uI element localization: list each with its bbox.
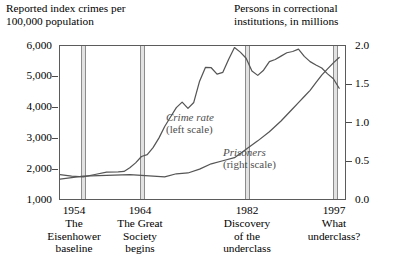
marker-caption-1964: The Great Society begins xyxy=(104,217,176,254)
prisoners-series-label: Prisoners (right scale) xyxy=(223,146,276,170)
marker-year-1997: 1997 xyxy=(296,204,372,216)
marker-caption-1954: The Eisenhower baseline xyxy=(39,217,109,254)
left-tickmark-3000 xyxy=(52,138,58,139)
right-axis-title: Persons in correctional institutions, in… xyxy=(234,2,339,27)
right-tick-2-0: 2.0 xyxy=(355,40,394,51)
marker-annotation-1954: 1954 The Eisenhower baseline xyxy=(39,204,109,255)
right-tick-1-5: 1.5 xyxy=(355,78,394,89)
marker-year-1982: 1982 xyxy=(210,204,284,216)
crime-rate-scale-text: (left scale) xyxy=(166,123,213,135)
prisoners-label-text: Prisoners xyxy=(223,146,266,158)
left-tickmark-4000 xyxy=(52,107,58,108)
right-tickmark-1-5 xyxy=(346,84,352,85)
marker-annotation-1964: 1964 The Great Society begins xyxy=(104,204,176,255)
left-tick-2000: 2,000 xyxy=(0,163,52,174)
crime-rate-series-label: Crime rate (left scale) xyxy=(166,111,214,135)
left-tick-5000: 5,000 xyxy=(0,70,52,81)
left-tick-3000: 3,000 xyxy=(0,132,52,143)
left-tickmark-2000 xyxy=(52,169,58,170)
right-tickmark-1-0 xyxy=(346,122,352,123)
marker-year-1954: 1954 xyxy=(39,204,109,216)
plot-area: Crime rate (left scale) Prisoners (right… xyxy=(59,45,346,200)
left-axis-title: Reported index crimes per 100,000 popula… xyxy=(6,2,126,27)
prisoners-scale-text: (right scale) xyxy=(223,158,276,170)
marker-caption-1997: What underclass? xyxy=(296,217,372,242)
right-tick-1-0: 1.0 xyxy=(355,117,394,128)
chart-figure: Reported index crimes per 100,000 popula… xyxy=(0,0,394,279)
left-tick-6000: 6,000 xyxy=(0,40,52,51)
left-tick-4000: 4,000 xyxy=(0,101,52,112)
marker-year-1964: 1964 xyxy=(104,204,176,216)
marker-annotation-1982: 1982 Discovery of the underclass xyxy=(210,204,284,255)
marker-caption-1982: Discovery of the underclass xyxy=(210,217,284,254)
left-tickmark-5000 xyxy=(52,76,58,77)
right-tickmark-0-5 xyxy=(346,161,352,162)
crime-rate-label-text: Crime rate xyxy=(166,111,214,123)
right-tick-0-5: 0.5 xyxy=(355,155,394,166)
marker-annotation-1997: 1997 What underclass? xyxy=(296,204,372,242)
